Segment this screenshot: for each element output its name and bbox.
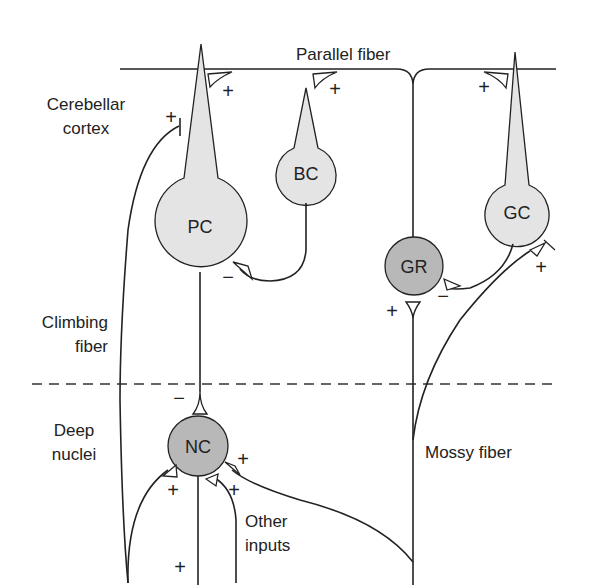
label-cortex: cortex: [63, 119, 110, 138]
cerebellar-circuit-diagram: PC BC GC GR NC: [0, 0, 590, 587]
sign-pc-nc: −: [173, 387, 185, 409]
mossy-fiber: [225, 240, 555, 585]
label-cerebellar: Cerebellar: [47, 95, 126, 114]
label-parallel-fiber: Parallel fiber: [296, 45, 391, 64]
sign-cf-pc: +: [165, 106, 177, 128]
sign-gc-gr: −: [437, 285, 449, 307]
label-fiber: fiber: [75, 337, 108, 356]
sign-cf-nc: +: [167, 479, 179, 501]
label-inputs: inputs: [245, 536, 290, 555]
label-nuclei: nuclei: [52, 445, 96, 464]
label-deep: Deep: [54, 421, 95, 440]
golgi-cell: GC: [444, 52, 549, 290]
bc-label: BC: [293, 164, 318, 184]
sign-pf-bc: +: [329, 78, 341, 100]
granule-cell: GR: [385, 237, 443, 295]
label-other: Other: [245, 512, 288, 531]
sign-pf-pc: +: [222, 80, 234, 102]
sign-bc-pc: −: [222, 266, 234, 288]
nc-label: NC: [185, 437, 211, 457]
gc-label: GC: [504, 203, 531, 223]
sign-pf-gc: +: [478, 76, 490, 98]
basket-cell: BC: [233, 88, 336, 281]
label-mossy-fiber: Mossy fiber: [425, 443, 512, 462]
pc-label: PC: [187, 217, 212, 237]
sign-mf-gr: +: [386, 300, 398, 322]
label-climbing: Climbing: [42, 313, 108, 332]
sign-other-nc: +: [228, 479, 240, 501]
sign-mf-gc: +: [535, 256, 547, 278]
sign-nc-out: +: [174, 556, 186, 578]
gr-label: GR: [401, 257, 428, 277]
sign-mf-nc: +: [237, 448, 249, 470]
